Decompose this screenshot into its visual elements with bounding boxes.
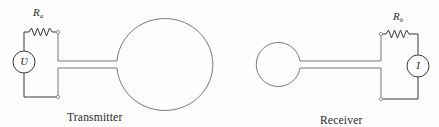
large-circle-antenna — [117, 19, 213, 111]
schematic-drawing — [0, 0, 439, 127]
transmitter-caption: Transmitter — [67, 111, 122, 123]
meter-symbol-label: I — [411, 59, 425, 71]
terminal-icon — [379, 32, 382, 35]
terminal-icon — [379, 97, 382, 100]
resistor-rb-icon — [381, 30, 418, 38]
source-symbol-label: Ʋ — [17, 55, 31, 67]
transmitter-circuit — [13, 19, 213, 111]
receiver-circuit — [256, 30, 429, 101]
resistor-ra-icon — [24, 28, 58, 36]
resistor-ra-label: Ra — [33, 6, 43, 20]
small-circle-antenna — [256, 43, 300, 87]
resistor-rb-label: Rb — [393, 10, 403, 24]
terminal-icon — [56, 95, 59, 98]
terminal-icon — [56, 30, 59, 33]
diagram-canvas: Ra Ʋ Transmitter Rb I Receiver — [0, 0, 439, 127]
receiver-caption: Receiver — [320, 114, 362, 126]
